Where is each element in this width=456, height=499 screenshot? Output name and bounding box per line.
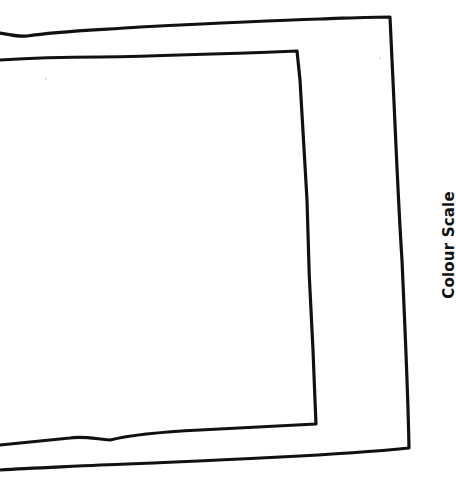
sketch-canvas: Colour Scale	[0, 0, 456, 499]
inner-frame	[0, 51, 316, 445]
colour-scale-label: Colour Scale	[440, 191, 456, 299]
outer-frame	[0, 17, 409, 470]
paper-speck	[45, 78, 47, 80]
frames-drawing	[0, 0, 456, 499]
paper-speck	[379, 57, 381, 59]
